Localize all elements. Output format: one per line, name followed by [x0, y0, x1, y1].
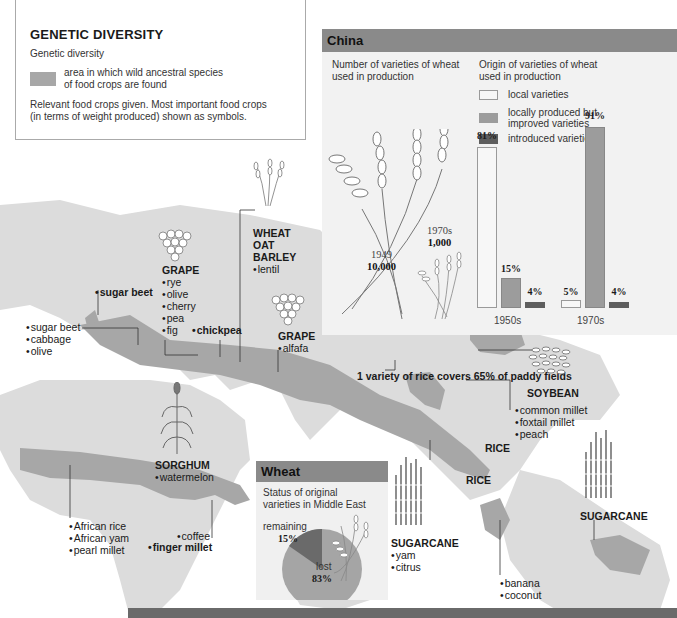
grape-icon: [268, 288, 308, 326]
crop-watermelon: watermelon: [155, 471, 214, 483]
crop-grape-med: GRAPE: [162, 264, 199, 276]
swatch-local: [479, 90, 498, 100]
bar-1950s-improved: [501, 278, 521, 308]
bar-1970s-improved: [585, 127, 605, 308]
legend-swatch-label-1: area in which wild ancestral species: [64, 67, 223, 79]
pie-lost-label: lost: [316, 561, 332, 573]
legend-swatch-label-2: of food crops are found: [64, 79, 223, 91]
origin-title-line-2: used in production: [479, 71, 597, 83]
crop-common-millet: common millet: [515, 404, 587, 416]
label-local: local varieties: [508, 89, 569, 100]
sugarcane-icon: [392, 455, 428, 527]
crop-oat: OAT: [253, 239, 296, 251]
pie-lost-value: 83%: [312, 573, 332, 585]
crop-pea: pea: [162, 312, 199, 324]
count-title-line-1: Number of varieties of wheat: [332, 59, 459, 71]
bar-1950s-local: [477, 147, 497, 308]
origin-title-line-1: Origin of varieties of wheat: [479, 59, 597, 71]
crop-cabbage: cabbage: [26, 333, 80, 345]
pct-1970s-local: 5%: [556, 286, 586, 297]
crop-grape-ca: GRAPE: [278, 330, 315, 342]
crop-coconut: coconut: [500, 589, 541, 601]
legend-local: local varieties: [479, 89, 569, 100]
count-title-line-2: used in production: [332, 71, 459, 83]
grape-icon: [155, 222, 195, 262]
wheat-panel: Wheat Status of original varieties in Mi…: [256, 461, 388, 600]
count-1949: 1949 10,000: [367, 249, 396, 273]
soybean-icon: [528, 344, 573, 379]
pie-remaining-label: remaining: [263, 521, 307, 533]
pct-1950s-introduced: 4%: [520, 286, 550, 297]
bottom-band: [128, 608, 677, 618]
crop-sugarcane-india: SUGARCANE: [391, 537, 459, 549]
origin-bar-chart: 81% 15% 4% 5% 91% 4%: [477, 108, 677, 308]
legend-title: GENETIC DIVERSITY: [30, 27, 291, 42]
crop-rye: rye: [162, 276, 199, 288]
crop-alfafa: alfafa: [278, 342, 315, 354]
china-title: China: [322, 29, 677, 52]
wheat-icon: [248, 158, 288, 208]
crop-barley: BARLEY: [253, 251, 296, 263]
count-1949-year: 1949: [367, 249, 396, 261]
sugarcane-icon: [582, 428, 618, 500]
pie-remaining-value: 15%: [278, 533, 298, 545]
decade-1970s: 1970s: [577, 315, 604, 326]
count-1970s-year: 1970s: [427, 225, 452, 237]
wheat-bundle-small-icon: [417, 251, 467, 321]
crop-cherry: cherry: [162, 300, 199, 312]
crop-rice-1: RICE: [485, 442, 510, 454]
crop-sugar-beet: sugar beet: [26, 321, 80, 333]
label-near-east: WHEAT OAT BARLEY lentil: [253, 227, 296, 275]
legend-swatch: [30, 72, 56, 86]
label-west-europe: sugar beet cabbage olive: [26, 321, 80, 357]
label-central-asia: GRAPE alfafa: [278, 330, 315, 354]
china-panel: China Number of varieties of wheat used …: [322, 29, 677, 335]
pct-1950s-local: 81%: [472, 130, 502, 141]
label-sahel: SORGHUM watermelon: [155, 459, 214, 483]
wheat-subtitle: Status of original varieties in Middle E…: [263, 487, 366, 511]
crop-african-rice: African rice: [69, 520, 129, 532]
sorghum-icon: [160, 382, 194, 454]
crop-yam: yam: [391, 549, 459, 561]
legend-note-line-2: (in terms of weight produced) shown as s…: [30, 111, 291, 123]
crop-soybean: SOYBEAN: [527, 387, 587, 399]
china-count-title: Number of varieties of wheat used in pro…: [332, 59, 459, 83]
label-west-africa: African rice African yam pearl millet: [69, 520, 129, 556]
legend-item-ancestral-area: area in which wild ancestral species of …: [30, 67, 291, 91]
pct-1950s-improved: 15%: [496, 263, 526, 274]
crop-sugarcane-ng: SUGARCANE: [580, 510, 648, 522]
legend-note: Relevant food crops given. Most importan…: [30, 99, 291, 123]
crop-citrus: citrus: [391, 561, 459, 573]
bar-1970s-introduced: [609, 302, 629, 308]
count-1949-value: 10,000: [367, 261, 396, 273]
crop-lentil: lentil: [253, 263, 296, 275]
crop-olive-med: olive: [162, 288, 199, 300]
legend-panel: GENETIC DIVERSITY Genetic diversity area…: [15, 0, 306, 140]
crop-sugar-beet-uk: sugar beet: [95, 286, 153, 298]
crop-sorghum: SORGHUM: [155, 459, 214, 471]
crop-pearl-millet: pearl millet: [69, 544, 129, 556]
crop-rice-2: RICE: [466, 474, 491, 486]
crop-foxtail-millet: foxtail millet: [515, 416, 587, 428]
crop-banana: banana: [500, 577, 541, 589]
count-1970s-value: 1,000: [427, 237, 452, 249]
crop-finger-millet: finger millet: [148, 541, 212, 553]
legend-note-line-1: Relevant food crops given. Most importan…: [30, 99, 291, 111]
wheat-title: Wheat: [256, 461, 388, 482]
legend-subtitle: Genetic diversity: [30, 48, 291, 59]
wheat-subtitle-1: Status of original: [263, 487, 366, 499]
crop-chickpea: chickpea: [192, 324, 242, 336]
decade-1950s: 1950s: [494, 315, 521, 326]
crop-wheat: WHEAT: [253, 227, 296, 239]
pct-1970s-introduced: 4%: [604, 286, 634, 297]
crop-olive: olive: [26, 345, 80, 357]
count-1970s: 1970s 1,000: [427, 225, 452, 249]
china-origin-title: Origin of varieties of wheat used in pro…: [479, 59, 597, 83]
label-india: SUGARCANE yam citrus: [391, 537, 459, 573]
pct-1970s-improved: 91%: [580, 110, 610, 121]
label-indonesia: banana coconut: [500, 577, 541, 601]
label-north-china: SOYBEAN common millet foxtail millet pea…: [515, 387, 587, 440]
crop-african-yam: African yam: [69, 532, 129, 544]
bar-1970s-local: [561, 300, 581, 308]
crop-peach: peach: [515, 428, 587, 440]
